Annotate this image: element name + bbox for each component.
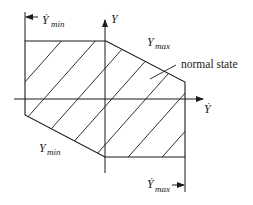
normal-state-label: normal state	[181, 58, 238, 70]
svg-text:Ẏ: Ẏ	[147, 177, 155, 191]
svg-text:Y: Y	[147, 35, 155, 49]
svg-text:max: max	[155, 184, 170, 194]
svg-text:Ẏ: Ẏ	[42, 13, 50, 27]
svg-text:min: min	[51, 19, 65, 29]
svg-text:Y: Y	[39, 141, 47, 155]
y-axis-label: Y	[111, 12, 119, 26]
region-hatching	[0, 20, 253, 200]
y-max-label: Y max	[147, 35, 170, 51]
normal-state-leader	[150, 65, 176, 79]
ydot-min-label: Ẏ min	[42, 13, 65, 29]
ydot-axis-label: Ẏ	[204, 102, 212, 116]
envelope-diagram: Ẏ min Y Y max normal state Ẏ Y min Ẏ max	[0, 0, 253, 205]
svg-text:min: min	[47, 147, 61, 157]
ydot-max-label: Ẏ max	[147, 177, 170, 194]
y-min-label: Y min	[39, 141, 61, 157]
svg-text:max: max	[155, 41, 170, 51]
